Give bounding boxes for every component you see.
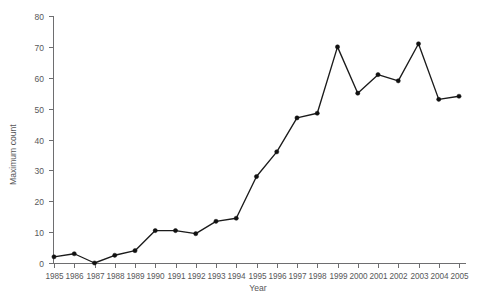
chart-container: Maximum count 01020304050607080 19851986… <box>0 0 485 304</box>
x-axis-ticks <box>55 263 460 268</box>
data-point-marker <box>92 261 96 265</box>
data-point-marker <box>153 228 157 232</box>
data-point-marker <box>295 116 299 120</box>
data-point-marker <box>437 97 441 101</box>
x-tick-label: 2001 <box>369 272 388 281</box>
data-point-marker <box>133 249 137 253</box>
data-point-marker <box>275 150 279 154</box>
x-tick-label: 1993 <box>207 272 226 281</box>
y-tick-label: 20 <box>35 197 45 207</box>
x-tick-label: 2004 <box>430 272 449 281</box>
x-tick-label: 1998 <box>308 272 327 281</box>
x-tick-label: 2003 <box>410 272 429 281</box>
y-tick-label: 30 <box>35 166 45 176</box>
x-tick-label: 1990 <box>146 272 165 281</box>
data-point-marker <box>194 232 198 236</box>
data-point-marker <box>335 45 339 49</box>
x-tick-label: 1985 <box>45 272 64 281</box>
y-tick-label: 0 <box>39 259 44 269</box>
x-tick-label: 1994 <box>227 272 246 281</box>
x-tick-label: 1995 <box>248 272 267 281</box>
x-tick-label: 2000 <box>349 272 368 281</box>
data-point-marker <box>254 174 258 178</box>
chart-background <box>0 0 485 304</box>
x-tick-label: 1986 <box>65 272 84 281</box>
x-tick-label: 1987 <box>86 272 105 281</box>
y-tick-label: 50 <box>35 105 45 115</box>
data-point-marker <box>396 79 400 83</box>
x-axis-title: Year <box>249 283 267 293</box>
data-point-marker <box>376 73 380 77</box>
data-point-marker <box>356 91 360 95</box>
data-point-marker <box>173 228 177 232</box>
data-point-marker <box>72 252 76 256</box>
line-chart: Maximum count 01020304050607080 19851986… <box>0 0 485 304</box>
data-point-marker <box>214 219 218 223</box>
y-axis-title: Maximum count <box>8 124 18 185</box>
data-point-marker <box>113 253 117 257</box>
x-tick-label: 1996 <box>268 272 287 281</box>
x-tick-label: 2002 <box>389 272 408 281</box>
data-point-marker <box>234 216 238 220</box>
data-point-marker <box>315 111 319 115</box>
x-tick-label: 1988 <box>106 272 125 281</box>
y-tick-label: 70 <box>35 43 45 53</box>
y-tick-label: 40 <box>35 136 45 146</box>
data-point-marker <box>416 42 420 46</box>
x-tick-label: 2005 <box>450 272 469 281</box>
x-tick-label: 1989 <box>126 272 145 281</box>
x-tick-label: 1999 <box>329 272 348 281</box>
x-axis-tick-labels: 1985198619871988198919901991199219931994… <box>45 272 469 281</box>
data-point-marker <box>457 94 461 98</box>
x-tick-label: 1992 <box>187 272 206 281</box>
x-tick-label: 1997 <box>288 272 307 281</box>
x-tick-label: 1991 <box>167 272 186 281</box>
data-point-marker <box>52 255 56 259</box>
y-tick-label: 10 <box>35 228 45 238</box>
y-tick-label: 80 <box>35 12 45 22</box>
y-tick-label: 60 <box>35 74 45 84</box>
